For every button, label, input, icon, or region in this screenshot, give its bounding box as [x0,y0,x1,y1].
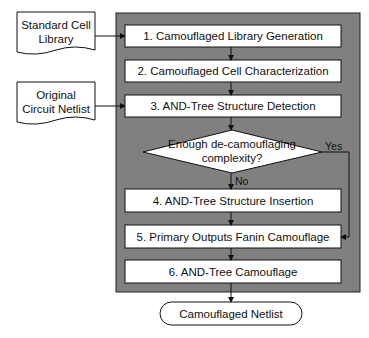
step-label: 2. Camouflaged Cell Characterization [137,65,328,77]
decision-label-line: complexity? [202,152,263,164]
input-original-circuit-netlist: Original Circuit Netlist [17,82,95,124]
output-camouflaged-netlist: Camouflaged Netlist [160,302,302,325]
yes-label: Yes [325,140,342,152]
input-label-line: Library [38,33,73,45]
step-4: 4. AND-Tree Structure Insertion [125,189,341,212]
step-label: 4. AND-Tree Structure Insertion [153,195,314,207]
input-standard-cell-library: Standard Cell Library [17,12,95,54]
step-label: 1. Camouflaged Library Generation [143,30,323,42]
step-5: 5. Primary Outputs Fanin Camouflage [125,225,341,248]
input-label-line: Standard Cell [21,19,91,31]
flowchart: Standard Cell Library Original Circuit N… [0,0,369,338]
decision-label-line: Enough de-camouflaging [168,138,296,150]
output-label: Camouflaged Netlist [179,308,283,320]
step-label: 3. AND-Tree Structure Detection [150,100,315,112]
step-label: 6. AND-Tree Camouflage [169,266,298,278]
step-6: 6. AND-Tree Camouflage [125,260,341,283]
input-label-line: Circuit Netlist [22,103,91,115]
step-label: 5. Primary Outputs Fanin Camouflage [136,231,329,243]
no-label: No [235,175,249,187]
input-label-line: Original [36,89,76,101]
step-3: 3. AND-Tree Structure Detection [125,95,341,117]
step-2: 2. Camouflaged Cell Characterization [125,60,341,82]
step-1: 1. Camouflaged Library Generation [125,25,341,47]
